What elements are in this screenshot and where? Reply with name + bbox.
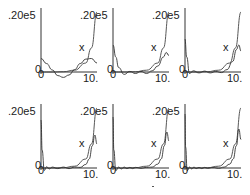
plot-panel-6: .20e50010.x [0, 0, 80, 90]
y-max-label: .20e5 [152, 106, 180, 117]
x-marker: x [223, 138, 229, 149]
stray-dot [152, 186, 154, 187]
plot-canvas [0, 0, 250, 195]
x-max-label: 10. [227, 169, 242, 180]
x-zero-label: 0 [182, 165, 188, 176]
approx-series-line [185, 114, 241, 171]
